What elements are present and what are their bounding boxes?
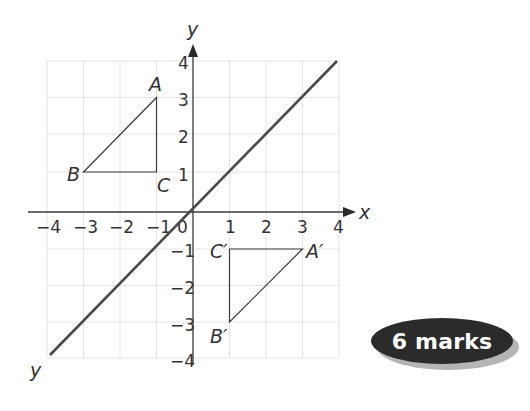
svg-text:2: 2 xyxy=(261,217,272,237)
x-axis-arrow-icon xyxy=(343,207,356,217)
label-c-prime: C′ xyxy=(210,240,228,262)
y-axis-arrow-icon xyxy=(188,44,198,57)
y-axis-label: y xyxy=(186,18,199,40)
svg-text:−3: −3 xyxy=(170,315,195,335)
label-c: C xyxy=(157,174,171,196)
svg-text:4: 4 xyxy=(178,53,189,73)
mirror-line-label: y xyxy=(29,359,42,381)
x-tick-labels: −4 −3 −2 −1 0 1 2 3 4 xyxy=(36,217,344,237)
label-b-prime: B′ xyxy=(210,325,228,347)
svg-text:−2: −2 xyxy=(170,278,195,298)
svg-text:1: 1 xyxy=(225,217,236,237)
svg-text:−4: −4 xyxy=(170,351,195,371)
label-b: B xyxy=(67,163,80,185)
svg-text:3: 3 xyxy=(178,90,189,110)
marks-badge: 6 marks xyxy=(371,318,521,373)
svg-text:2: 2 xyxy=(178,127,189,147)
svg-text:4: 4 xyxy=(333,217,344,237)
svg-text:1: 1 xyxy=(178,165,189,185)
svg-text:−3: −3 xyxy=(73,217,98,237)
svg-text:3: 3 xyxy=(297,217,308,237)
label-a: A xyxy=(147,73,162,95)
marks-text: 6 marks xyxy=(392,329,493,354)
svg-text:−4: −4 xyxy=(36,217,61,237)
x-axis-label: x xyxy=(358,201,371,223)
svg-text:−1: −1 xyxy=(170,241,195,261)
svg-text:−2: −2 xyxy=(109,217,134,237)
label-a-prime: A′ xyxy=(304,240,324,262)
badge-body: 6 marks xyxy=(371,318,513,364)
